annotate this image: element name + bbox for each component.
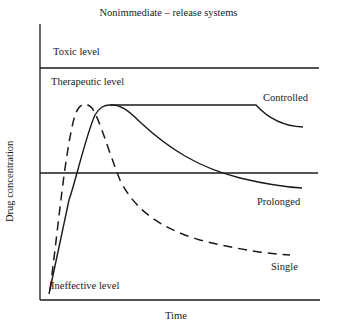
y-axis-label: Drug concentration [4, 141, 15, 222]
single-label: Single [271, 261, 298, 272]
therapeutic-level-label: Therapeutic level [51, 76, 124, 87]
prolonged-label: Prolonged [257, 196, 300, 207]
x-axis-label: Time [165, 310, 187, 321]
prolonged-curve [110, 105, 302, 188]
toxic-level-label: Toxic level [53, 46, 100, 57]
ineffective-level-label: Ineffective level [51, 280, 119, 291]
controlled-label: Controlled [263, 92, 308, 103]
single-curve [50, 104, 290, 290]
